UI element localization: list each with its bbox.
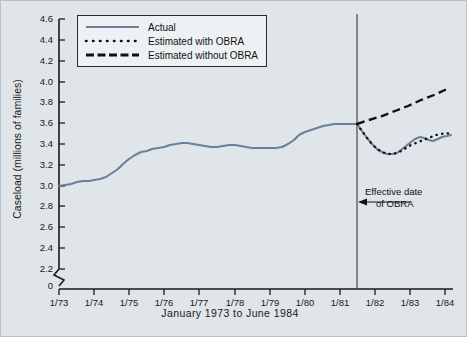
y-tick-label: 2.6 <box>27 221 53 232</box>
y-tick-label: 4.2 <box>27 55 53 66</box>
y-tick-label: 2.2 <box>27 263 53 274</box>
chart-legend: Actual Estimated with OBRA Estimated wit… <box>77 15 267 67</box>
y-tick-label: 3.8 <box>27 96 53 107</box>
y-tick-label: 4.4 <box>27 34 53 45</box>
series-estimated-without-obra <box>357 89 447 124</box>
y-tick-label: 3.6 <box>27 117 53 128</box>
x-tick-label: 1/84 <box>428 297 462 308</box>
legend-key-dashed-icon <box>84 49 141 61</box>
obra-annotation: Effective date of OBRA <box>365 186 422 210</box>
chart-figure: 0 2.2 2.4 2.6 2.8 3.0 3.2 3.4 3.6 3.8 4.… <box>0 0 467 337</box>
y-tick-label: 2.4 <box>27 242 53 253</box>
legend-key-solid-icon <box>84 21 141 33</box>
legend-item-estimated-with-obra: Estimated with OBRA <box>84 34 258 48</box>
obra-annotation-line2: of OBRA <box>365 198 422 210</box>
legend-item-actual: Actual <box>84 20 258 34</box>
y-tick-marks <box>59 19 65 269</box>
y-tick-label: 0 <box>27 280 53 291</box>
y-tick-label: 4.0 <box>27 76 53 87</box>
y-axis-break <box>54 269 64 286</box>
y-tick-label: 3.2 <box>27 159 53 170</box>
y-tick-label: 3.0 <box>27 180 53 191</box>
x-tick-label: 1/73 <box>42 297 76 308</box>
y-tick-label: 2.8 <box>27 200 53 211</box>
legend-label: Estimated with OBRA <box>148 36 244 47</box>
obra-annotation-line1: Effective date <box>365 186 422 197</box>
y-tick-label: 4.6 <box>27 13 53 24</box>
legend-label: Estimated without OBRA <box>148 50 258 61</box>
legend-item-estimated-without-obra: Estimated without OBRA <box>84 48 258 62</box>
x-tick-marks <box>59 289 445 295</box>
y-tick-label: 3.4 <box>27 138 53 149</box>
legend-label: Actual <box>148 22 176 33</box>
x-axis-title: January 1973 to June 1984 <box>85 307 375 319</box>
y-axis-title: Caseload (millions of families) <box>11 64 23 234</box>
x-tick-label: 1/83 <box>393 297 427 308</box>
series-actual <box>59 124 357 186</box>
series-actual-post-obra <box>357 124 451 154</box>
legend-key-dotted-icon <box>84 35 141 47</box>
